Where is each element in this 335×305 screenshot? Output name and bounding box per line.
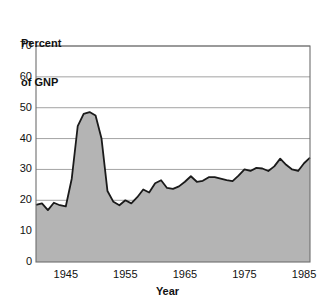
x-tick-label-1975: 1975 [232,269,256,280]
x-tick-label-1985: 1985 [292,269,316,280]
y-tick-label-50: 50 [4,102,32,113]
y-tick-label-70: 70 [4,40,32,51]
y-tick-label-40: 40 [4,133,32,144]
y-tick-label-20: 20 [4,194,32,205]
y-tick-label-60: 60 [4,71,32,82]
x-tick-label-1965: 1965 [173,269,197,280]
x-axis-title: Year [0,285,335,297]
x-tick-label-1945: 1945 [54,269,78,280]
y-axis-title: Percent of GNP [21,11,61,115]
chart-figure: Percent of GNP 010203040506070 194519551… [0,0,335,305]
y-tick-label-0: 0 [4,256,32,267]
x-tick-label-1955: 1955 [113,269,137,280]
y-tick-label-10: 10 [4,225,32,236]
y-tick-label-30: 30 [4,163,32,174]
